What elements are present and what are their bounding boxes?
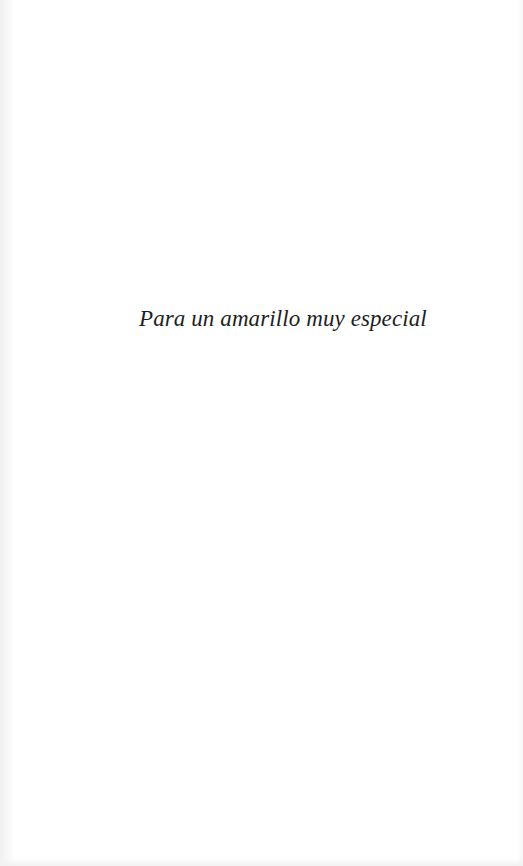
scan-edge-shadow-left (0, 0, 16, 866)
scan-edge-shadow-bottom (0, 858, 523, 866)
scan-edge-shadow-right (517, 0, 523, 866)
book-page: Para un amarillo muy especial (0, 0, 523, 866)
dedication-text: Para un amarillo muy especial (139, 305, 427, 333)
